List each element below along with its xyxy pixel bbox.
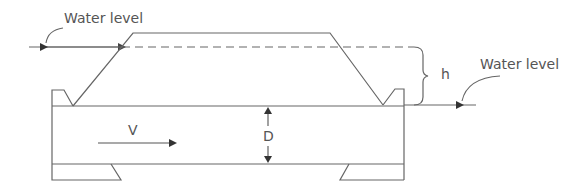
left-headwall <box>52 90 73 164</box>
downstream-leader <box>462 76 500 101</box>
right-footing <box>340 164 404 180</box>
culvert-diagram: Water level Water level h V D <box>0 0 586 194</box>
diagram-drawing <box>0 0 586 194</box>
upstream-arrowhead <box>40 43 48 51</box>
left-footing <box>52 164 121 180</box>
head-difference-label: h <box>441 67 450 81</box>
embankment <box>73 33 383 106</box>
head-brace <box>414 47 428 105</box>
upstream-leader <box>46 28 63 43</box>
right-headwall <box>383 89 404 180</box>
velocity-label: V <box>128 123 138 137</box>
downstream-water-level-label: Water level <box>480 57 559 71</box>
downstream-arrowhead <box>456 101 464 109</box>
upstream-water-level-label: Water level <box>64 11 143 25</box>
depth-label: D <box>263 129 274 143</box>
